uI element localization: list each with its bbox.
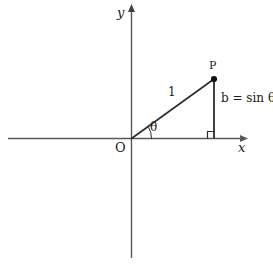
hypotenuse-length-label: 1 (168, 86, 176, 98)
angle-theta-label: θ (150, 121, 157, 133)
point-p-marker (211, 76, 217, 82)
right-angle-marker (208, 132, 215, 139)
opposite-side-label: b = sin θ (221, 92, 273, 104)
x-axis-label: x (238, 141, 245, 154)
y-axis-arrowhead (128, 4, 135, 12)
origin-label: O (115, 141, 126, 154)
diagram-canvas (0, 0, 273, 265)
x-axis (8, 135, 248, 142)
point-p-label: P (209, 60, 216, 71)
y-axis (128, 4, 135, 258)
y-axis-label: y (117, 6, 124, 19)
trigonometry-diagram: y x O P 1 θ b = sin θ (0, 0, 273, 265)
